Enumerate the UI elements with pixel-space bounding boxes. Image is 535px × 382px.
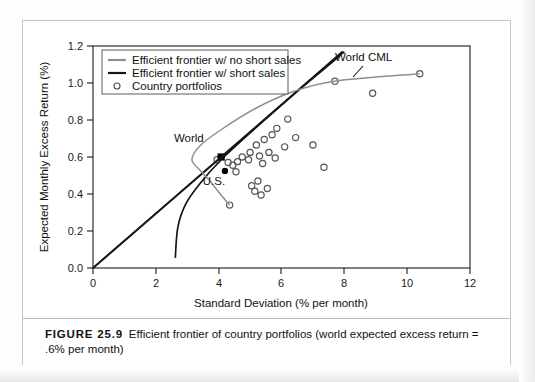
legend-label-country-portfolios: Country portfolios (132, 80, 222, 92)
y-tick-label-0.0: 0.0 (68, 262, 83, 274)
page-bottom-shading (0, 368, 535, 382)
x-tick-label-8: 8 (341, 277, 347, 289)
y-tick-label-0.8: 0.8 (68, 114, 83, 126)
y-tick-label-0.4: 0.4 (68, 188, 83, 200)
y-tick-label-1.0: 1.0 (68, 77, 83, 89)
figure-caption-bar: FIGURE 25.9Efficient frontier of country… (23, 318, 510, 365)
x-tick-label-12: 12 (464, 277, 476, 289)
figure-page: 1.2 1.0 0.8 0.6 0.4 0.2 0.0 0 (0, 0, 535, 382)
efficient-frontier-chart: 1.2 1.0 0.8 0.6 0.4 0.2 0.0 0 (22, 20, 511, 340)
page-right-shading (519, 0, 535, 382)
y-axis-ticks (87, 46, 93, 268)
x-axis-title: Standard Deviation (% per month) (194, 297, 368, 309)
figure-area: 1.2 1.0 0.8 0.6 0.4 0.2 0.0 0 (22, 20, 511, 365)
annotation-world-cml: World CML (335, 51, 393, 63)
x-tick-label-6: 6 (278, 277, 284, 289)
x-tick-labels: 0 2 4 6 8 10 12 (90, 277, 476, 289)
data-point-us (222, 168, 228, 174)
chart-legend: Efficient frontier w/ no short sales Eff… (102, 50, 301, 94)
x-tick-label-4: 4 (216, 277, 222, 289)
figure-caption-label: FIGURE 25.9 (45, 328, 123, 340)
y-tick-label-0.2: 0.2 (68, 225, 83, 237)
figure-caption: FIGURE 25.9Efficient frontier of country… (45, 327, 495, 357)
annotation-world: World (174, 132, 204, 144)
y-tick-labels: 1.2 1.0 0.8 0.6 0.4 0.2 0.0 (68, 40, 83, 274)
x-tick-label-2: 2 (153, 277, 159, 289)
y-tick-label-0.6: 0.6 (68, 151, 83, 163)
legend-label-no-short-sales: Efficient frontier w/ no short sales (132, 54, 301, 66)
x-tick-label-0: 0 (90, 277, 96, 289)
x-axis-ticks (93, 268, 470, 274)
annotation-us: U.S. (203, 175, 225, 187)
y-axis-title: Expected Monthly Excess Return (%) (38, 62, 50, 253)
y-tick-label-1.2: 1.2 (68, 40, 83, 52)
legend-label-short-sales: Efficient frontier w/ short sales (132, 67, 285, 79)
x-tick-label-10: 10 (401, 277, 413, 289)
